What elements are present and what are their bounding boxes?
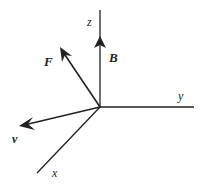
x-axis [37,107,100,173]
y-axis-label: y [177,89,184,103]
v-vector [19,107,100,130]
f-vector-label: F [43,54,53,69]
z-axis-label: z [86,15,92,29]
f-vector [60,47,100,107]
x-axis-label: x [51,166,58,180]
vector-diagram: z B F y v x [0,0,205,186]
b-vector-label: B [108,50,118,65]
v-vector-label: v [12,132,18,146]
